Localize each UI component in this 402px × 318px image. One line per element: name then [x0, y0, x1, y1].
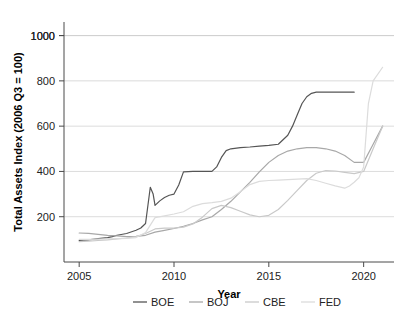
x-tick-label-2020: 2020	[351, 270, 375, 282]
legend-label-boe[interactable]: BOE	[151, 296, 174, 308]
legend-label-boj[interactable]: BOJ	[207, 296, 228, 308]
y-axis-title: Total Assets Index (2006 Q3 = 100)	[12, 52, 24, 232]
legend-label-fed[interactable]: FED	[319, 296, 341, 308]
y-tick-label-800: 800	[37, 75, 55, 87]
y-tick-label-1000: 1000	[31, 30, 55, 42]
chart-figure: 200400600800100010002005201020152020Year…	[0, 0, 402, 318]
y-tick-label-600: 600	[37, 120, 55, 132]
x-tick-label-2015: 2015	[257, 270, 281, 282]
y-tick-label-400: 400	[37, 165, 55, 177]
legend-label-cbe[interactable]: CBE	[263, 296, 286, 308]
x-tick-label-2005: 2005	[67, 270, 91, 282]
figure-background	[0, 0, 402, 318]
x-tick-label-2010: 2010	[162, 270, 186, 282]
y-tick-label-200: 200	[37, 211, 55, 223]
